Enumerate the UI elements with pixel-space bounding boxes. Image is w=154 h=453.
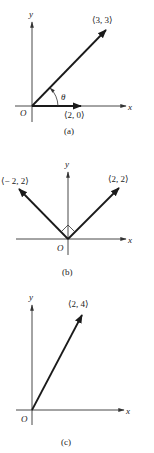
vector-neg2-2-label: ⟨− 2, 2⟩ [1, 176, 29, 186]
x-axis-label: x [125, 406, 130, 416]
origin-label: O [21, 414, 28, 424]
vector-2-4 [32, 315, 82, 410]
angle-arc [50, 88, 58, 106]
origin-label: O [20, 108, 27, 118]
vector-diagrams: y x O ⟨3, 3⟩ ⟨2, 0⟩ θ (a) y x O ⟨− 2, 2⟩… [0, 0, 154, 453]
y-axis-label: y [28, 9, 33, 19]
y-axis-label: y [64, 159, 69, 169]
vector-3-3-label: ⟨3, 3⟩ [92, 15, 113, 25]
vector-neg2-2 [19, 189, 68, 239]
panel-c: y x O ⟨2, 4⟩ (c) [16, 292, 130, 447]
vector-2-0-label: ⟨2, 0⟩ [64, 110, 85, 120]
x-axis-label: x [127, 235, 132, 245]
vector-2-4-label: ⟨2, 4⟩ [68, 299, 89, 309]
vector-2-2 [68, 188, 119, 239]
origin-label: O [57, 243, 64, 253]
vector-3-3 [32, 30, 106, 106]
y-axis-label: y [28, 292, 33, 302]
panel-b: y x O ⟨− 2, 2⟩ ⟨2, 2⟩ (b) [1, 159, 132, 277]
theta-label: θ [61, 92, 66, 102]
caption-b: (b) [62, 267, 73, 277]
x-axis-label: x [127, 102, 132, 112]
caption-a: (a) [64, 126, 74, 136]
caption-c: (c) [61, 437, 71, 447]
vector-2-2-label: ⟨2, 2⟩ [108, 174, 129, 184]
panel-a: y x O ⟨3, 3⟩ ⟨2, 0⟩ θ (a) [15, 9, 132, 136]
